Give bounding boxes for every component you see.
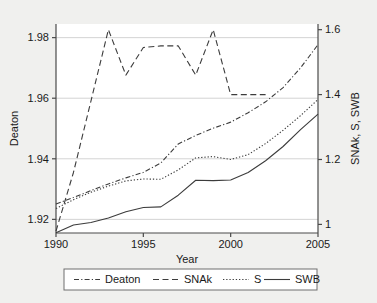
plot-background xyxy=(56,24,318,233)
legend-label: Deaton xyxy=(105,273,140,285)
right-tick-label: 1.4 xyxy=(325,88,340,100)
left-tick-label: 1.92 xyxy=(28,213,49,225)
left-axis-title: Deaton xyxy=(8,111,20,146)
line-chart: 1.921.941.961.9811.21.41.619901995200020… xyxy=(0,0,377,303)
left-tick-label: 1.96 xyxy=(28,92,49,104)
legend-label: S xyxy=(254,273,261,285)
legend-label: SWB xyxy=(295,273,320,285)
x-tick-label: 2005 xyxy=(306,238,330,250)
right-tick-label: 1.6 xyxy=(325,23,340,35)
x-tick-label: 1990 xyxy=(44,238,68,250)
x-axis-title: Year xyxy=(176,253,199,265)
x-tick-label: 2000 xyxy=(218,238,242,250)
right-tick-label: 1.2 xyxy=(325,153,340,165)
right-tick-label: 1 xyxy=(325,218,331,230)
x-tick-label: 1995 xyxy=(131,238,155,250)
left-tick-label: 1.98 xyxy=(28,31,49,43)
chart-legend: DeatonSNAkSSWB xyxy=(64,269,320,290)
legend-label: SNAk xyxy=(184,273,213,285)
chart-figure: 1.921.941.961.9811.21.41.619901995200020… xyxy=(0,0,377,303)
left-tick-label: 1.94 xyxy=(28,153,49,165)
right-axis-title: SNAk, S, SWB xyxy=(349,92,361,165)
